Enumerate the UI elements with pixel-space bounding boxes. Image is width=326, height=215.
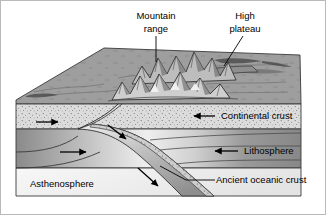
high-plateau-label-line1: High [235,10,255,21]
continental-crust-label: Continental crust [221,110,293,121]
top-surface [16,48,301,104]
label-asthenosphere: Asthenosphere [30,178,94,189]
ancient-oceanic-crust-label: Ancient oceanic crust [216,174,307,185]
mountain-range-label-line1: Mountain [136,10,175,21]
mountain-range-label-line2: range [144,23,168,34]
geology-cross-section-figure: Mountain range High plateau Continental … [0,0,326,215]
high-plateau-label-line2: plateau [229,23,260,34]
lithosphere-label: Lithosphere [244,145,294,156]
asthenosphere-label: Asthenosphere [30,178,94,189]
